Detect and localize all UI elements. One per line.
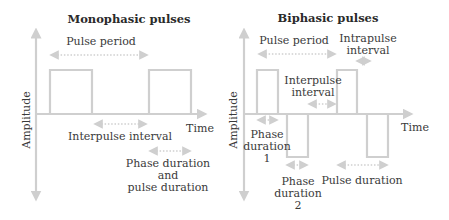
biphasic-x-axis-label: Time (401, 121, 429, 134)
biphasic-pulse-1-positive-phase (257, 70, 278, 114)
monophasic-pulse-2 (149, 70, 191, 114)
monophasic-title: Monophasic pulses (67, 12, 190, 26)
biphasic-title: Biphasic pulses (278, 11, 379, 25)
biphasic-pulse-period-label: Pulse period (259, 34, 329, 47)
biphasic-phase-duration-1-line-3: 1 (264, 152, 271, 165)
monophasic-x-axis-label: Time (186, 122, 214, 135)
monophasic-phase-duration-line-3: pulse duration (128, 181, 209, 194)
monophasic-panel: Monophasic pulses Amplitude Time Pulse p… (20, 12, 214, 196)
biphasic-pulse-duration-label: Pulse duration (321, 174, 402, 187)
biphasic-phase-duration-2-line-3: 2 (295, 199, 302, 212)
monophasic-pulse-period-label: Pulse period (66, 35, 136, 48)
biphasic-intrapulse-line-2: interval (346, 44, 390, 57)
pulse-diagram: Monophasic pulses Amplitude Time Pulse p… (0, 0, 449, 220)
biphasic-pulse-2-negative-phase (367, 114, 388, 157)
monophasic-y-axis-label: Amplitude (20, 91, 33, 150)
biphasic-y-axis-label: Amplitude (227, 91, 240, 150)
biphasic-interpulse-line-2: interval (291, 86, 335, 99)
monophasic-pulse-1 (50, 70, 92, 114)
monophasic-interpulse-label: Interpulse interval (68, 130, 172, 143)
biphasic-panel: Biphasic pulses Amplitude Time Pulse per… (227, 11, 429, 212)
